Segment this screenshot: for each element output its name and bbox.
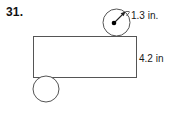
geometry-figure: 31. 1.3 in. 4.2 in	[0, 0, 169, 135]
height-dimension-label: 4.2 in	[139, 54, 163, 64]
top-circle-shape	[103, 9, 130, 36]
radius-dimension-label: 1.3 in.	[131, 11, 158, 21]
rectangle-shape	[34, 37, 137, 78]
bottom-circle-shape	[33, 76, 59, 102]
center-dot-icon	[112, 21, 117, 26]
